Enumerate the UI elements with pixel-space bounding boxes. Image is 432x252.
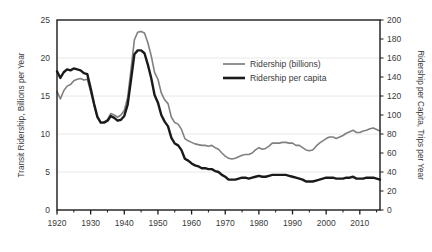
x-tick-label-1950: 1950: [148, 218, 167, 228]
x-tick-label-1990: 1990: [283, 218, 302, 228]
y-right-tick-label-140: 140: [387, 72, 401, 82]
y-left-tick-label-0: 0: [45, 205, 50, 215]
y-left-tick-label-15: 15: [41, 91, 51, 101]
y-right-tick-label-0: 0: [387, 205, 392, 215]
x-tick-label-1930: 1930: [81, 218, 100, 228]
y-right-tick-label-60: 60: [387, 148, 397, 158]
legend-label-0: Ridership (billions): [250, 59, 321, 69]
x-tick-label-2010: 2010: [350, 218, 369, 228]
y-left-tick-label-5: 5: [45, 167, 50, 177]
y-right-tick-label-180: 180: [387, 34, 401, 44]
y-left-tick-label-10: 10: [41, 129, 51, 139]
y-right-tick-label-100: 100: [387, 110, 401, 120]
x-tick-label-1940: 1940: [115, 218, 134, 228]
y-left-tick-label-20: 20: [41, 53, 51, 63]
y-right-tick-label-40: 40: [387, 167, 397, 177]
transit-ridership-line-chart: 1920193019401950196019701980199020002010…: [0, 0, 432, 252]
legend-label-1: Ridership per capita: [250, 73, 327, 83]
y-right-tick-label-120: 120: [387, 91, 401, 101]
x-tick-label-1980: 1980: [249, 218, 268, 228]
y-axis-left-title: Transit Ridership, Billions per Year: [17, 52, 26, 177]
y-right-tick-label-80: 80: [387, 129, 397, 139]
x-tick-label-1970: 1970: [216, 218, 235, 228]
x-tick-label-2000: 2000: [317, 218, 336, 228]
y-axis-right-title: Ridership per Capita, Trips per Year: [416, 50, 425, 180]
x-tick-label-1960: 1960: [182, 218, 201, 228]
y-right-tick-label-200: 200: [387, 15, 401, 25]
x-tick-label-1920: 1920: [48, 218, 67, 228]
chart-container: 1920193019401950196019701980199020002010…: [0, 0, 432, 252]
y-right-tick-label-160: 160: [387, 53, 401, 63]
chart-background: [0, 0, 432, 252]
y-right-tick-label-20: 20: [387, 186, 397, 196]
y-left-tick-label-25: 25: [41, 15, 51, 25]
